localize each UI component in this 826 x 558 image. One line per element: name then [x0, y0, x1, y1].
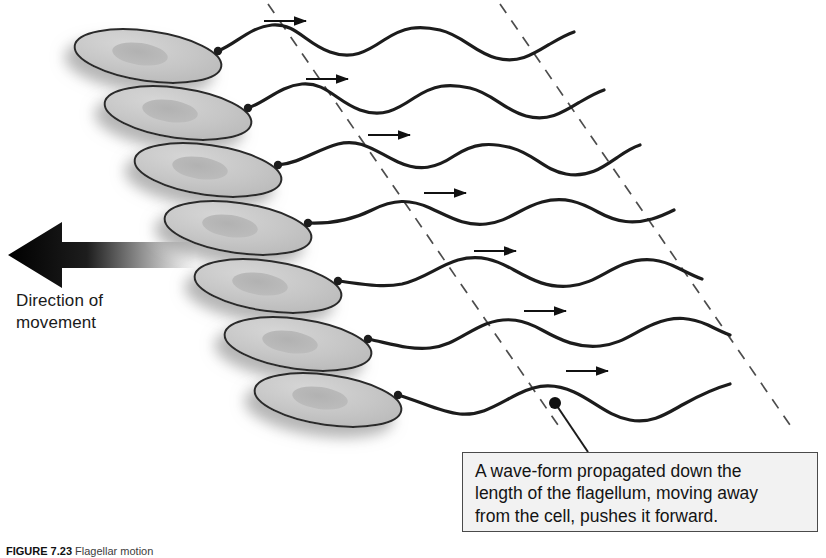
flagellum-waveform	[368, 318, 730, 348]
direction-label-line-1: Direction of	[16, 290, 196, 312]
callout-line-3: from the cell, pushes it forward.	[475, 505, 807, 527]
bacterium-row-4	[161, 193, 674, 263]
bacteria-sequence	[71, 21, 730, 435]
callout-leader	[549, 397, 588, 452]
figure-number: FIGURE 7.23	[6, 545, 72, 557]
figure-caption: FIGURE 7.23 Flagellar motion	[6, 545, 526, 557]
flagellum-waveform	[338, 258, 702, 287]
figure-caption-text: Flagellar motion	[75, 545, 153, 557]
bacterium-row-2	[101, 78, 604, 148]
flagellum-waveform	[248, 84, 604, 118]
callout-line-2: length of the flagellum, moving away	[475, 482, 807, 504]
bacterium-row-6	[221, 309, 730, 379]
flagellum-waveform	[218, 25, 574, 60]
direction-of-movement-label: Direction of movement	[16, 290, 196, 335]
callout-textbox: A wave-form propagated down the length o…	[462, 452, 818, 532]
figure-root: Direction of movement A wave-form propag…	[0, 0, 826, 558]
callout-leader-dot	[549, 397, 561, 409]
flagellum-waveform	[278, 143, 640, 175]
bacterium-row-7	[251, 365, 730, 435]
flagellum-waveform	[308, 200, 674, 225]
direction-of-movement-arrow	[8, 222, 196, 288]
bacterium-row-1	[71, 21, 574, 91]
direction-label-line-2: movement	[16, 312, 196, 334]
bacterium-row-5	[191, 251, 702, 321]
bacterium-row-3	[131, 135, 640, 205]
callout-line-1: A wave-form propagated down the	[475, 460, 807, 482]
dashed-crest-line-2	[500, 4, 792, 428]
